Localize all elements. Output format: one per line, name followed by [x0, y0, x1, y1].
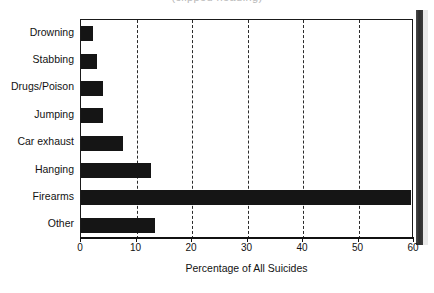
gridline-10: [137, 20, 138, 239]
bar: [81, 163, 151, 178]
category-label: Other: [0, 217, 74, 229]
category-label: Car exhaust: [0, 135, 74, 147]
category-label: Stabbing: [0, 53, 74, 65]
gridline-50: [359, 20, 360, 239]
x-axis-label: Percentage of All Suicides: [80, 262, 413, 274]
scan-edge-highlight: [423, 10, 428, 245]
gridline-30: [248, 20, 249, 239]
category-label: Firearms: [0, 190, 74, 202]
x-tick-label: 40: [296, 242, 307, 253]
bar: [81, 81, 103, 96]
x-tick-label: 0: [77, 242, 83, 253]
category-label: Hanging: [0, 163, 74, 175]
x-tick-label: 20: [185, 242, 196, 253]
x-tick-label: 30: [241, 242, 252, 253]
bar: [81, 108, 103, 123]
bar: [81, 218, 155, 233]
category-label: Drowning: [0, 26, 74, 38]
plot-frame: [80, 19, 413, 238]
bar: [81, 54, 97, 69]
bar: [81, 190, 411, 205]
x-tick-label: 60: [407, 242, 418, 253]
x-tick-label: 10: [130, 242, 141, 253]
chart-title-clipped: (clipped heading): [0, 0, 434, 9]
category-label: Jumping: [0, 108, 74, 120]
scan-edge-artifact: [416, 10, 423, 245]
x-tick-label: 50: [352, 242, 363, 253]
category-label: Drugs/Poison: [0, 80, 74, 92]
bar: [81, 136, 123, 151]
bar: [81, 26, 93, 41]
gridline-20: [192, 20, 193, 239]
gridline-40: [303, 20, 304, 239]
chart-title-text: (clipped heading): [0, 0, 434, 3]
